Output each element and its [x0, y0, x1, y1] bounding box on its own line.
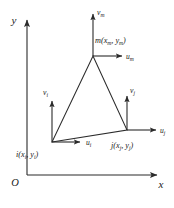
- node-m-coordinate-label: m(xm, ym): [95, 36, 126, 46]
- node-i-v-vector-label: vi: [43, 88, 48, 98]
- origin-label: O: [11, 177, 19, 188]
- node-j-v-vector-label: vj: [130, 86, 135, 96]
- triangular-element-diagram: y x O ui vi i(xi, yi): [0, 0, 174, 208]
- triangle-element: [52, 56, 127, 142]
- x-axis-label: x: [158, 178, 164, 190]
- node-i-coordinate-label: i(xi, yi): [16, 150, 39, 160]
- node-j-coordinate-label: j(xj, yj): [110, 141, 134, 151]
- node-m-u-vector-label: um: [126, 52, 134, 62]
- node-m-v-vector-label: vm: [97, 8, 104, 18]
- figure-canvas: y x O ui vi i(xi, yi): [0, 0, 174, 208]
- coordinate-axes: y x O: [11, 14, 164, 190]
- node-j: uj vj j(xj, yj): [110, 86, 166, 151]
- triangle-outline: [52, 56, 127, 142]
- node-j-u-vector-label: uj: [160, 126, 166, 136]
- node-i-u-vector-label: ui: [86, 138, 92, 148]
- y-axis-label: y: [11, 14, 17, 26]
- node-m: um vm m(xm, ym): [93, 8, 134, 62]
